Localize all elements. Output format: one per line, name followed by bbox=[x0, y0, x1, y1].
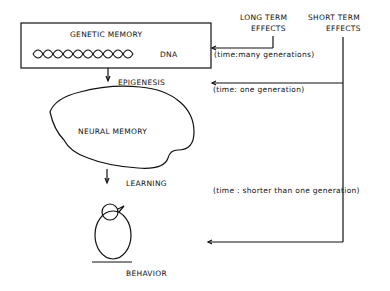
long-term-label-1: LONG TERM bbox=[240, 14, 287, 22]
time-shorter-than-one-generation: (time : shorter than one generation) bbox=[213, 187, 360, 195]
behavior-label: BEHAVIOR bbox=[126, 270, 167, 278]
genetic-memory-label: GENETIC MEMORY bbox=[70, 31, 142, 39]
epigenesis-label: EPIGENESIS bbox=[118, 79, 165, 87]
dna-label: DNA bbox=[160, 51, 177, 59]
short-term-label-1: SHORT TERM bbox=[308, 14, 360, 22]
time-many-generations: (time:many generations) bbox=[214, 51, 314, 59]
long-term-label-2: EFFECTS bbox=[251, 25, 286, 33]
short-term-label-2: EFFECTS bbox=[326, 25, 361, 33]
learning-label: LEARNING bbox=[126, 180, 167, 188]
neural-memory-label: NEURAL MEMORY bbox=[78, 128, 147, 136]
time-one-generation: (time: one generation) bbox=[213, 86, 304, 94]
diagram-lines bbox=[0, 0, 390, 291]
bird-icon bbox=[95, 211, 131, 259]
memory-diagram: GENETIC MEMORY DNA LONG TERM EFFECTS SHO… bbox=[0, 0, 390, 291]
